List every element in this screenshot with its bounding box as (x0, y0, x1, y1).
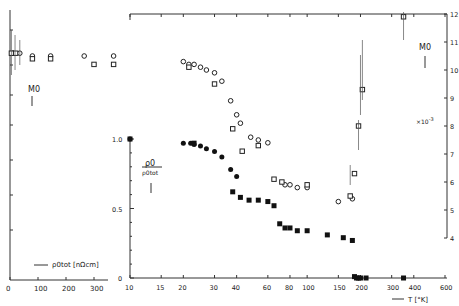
svg-text:0.5: 0.5 (112, 206, 122, 214)
svg-text:400: 400 (409, 284, 421, 292)
x-left-label: ρ0tot [nΩcm] (52, 261, 99, 269)
svg-text:300: 300 (387, 284, 399, 292)
m0-right-label: M0 (419, 43, 431, 52)
svg-text:0: 0 (6, 285, 10, 293)
svg-text:10: 10 (450, 67, 458, 75)
svg-text:150: 150 (333, 284, 345, 292)
data-points (9, 12, 406, 281)
svg-text:100: 100 (302, 284, 314, 292)
svg-text:100: 100 (34, 285, 47, 293)
svg-text:9: 9 (450, 95, 454, 103)
svg-text:5: 5 (450, 207, 454, 215)
chart-canvas: 0100200300101520304060801001502003004006… (0, 0, 459, 306)
axes: 0100200300101520304060801001502003004006… (6, 10, 458, 293)
m0-left-label: M0 (28, 85, 40, 94)
svg-text:0: 0 (118, 275, 122, 283)
svg-text:300: 300 (90, 285, 103, 293)
svg-text:200: 200 (62, 285, 75, 293)
svg-text:12: 12 (450, 11, 458, 19)
ratio-denominator: ρ0tot (142, 169, 159, 177)
svg-text:10: 10 (125, 284, 133, 292)
scale-label: ×10-3 (416, 116, 434, 125)
svg-text:200: 200 (355, 284, 367, 292)
svg-text:11: 11 (450, 39, 458, 47)
svg-text:4: 4 (450, 235, 454, 243)
svg-text:60: 60 (263, 284, 271, 292)
svg-text:15: 15 (156, 284, 164, 292)
svg-text:6: 6 (450, 179, 454, 187)
svg-text:8: 8 (450, 123, 454, 131)
svg-text:1.0: 1.0 (112, 136, 122, 144)
svg-text:80: 80 (285, 284, 293, 292)
x-main-label: T [°K] (407, 296, 428, 304)
svg-text:30: 30 (210, 284, 218, 292)
svg-text:600: 600 (440, 284, 452, 292)
labels: M0 M0 ×10-3 ρ0 ρ0tot ρ0tot [nΩcm] T [°K] (28, 43, 434, 304)
svg-text:20: 20 (178, 284, 186, 292)
svg-text:7: 7 (450, 151, 454, 159)
svg-text:40: 40 (232, 284, 240, 292)
